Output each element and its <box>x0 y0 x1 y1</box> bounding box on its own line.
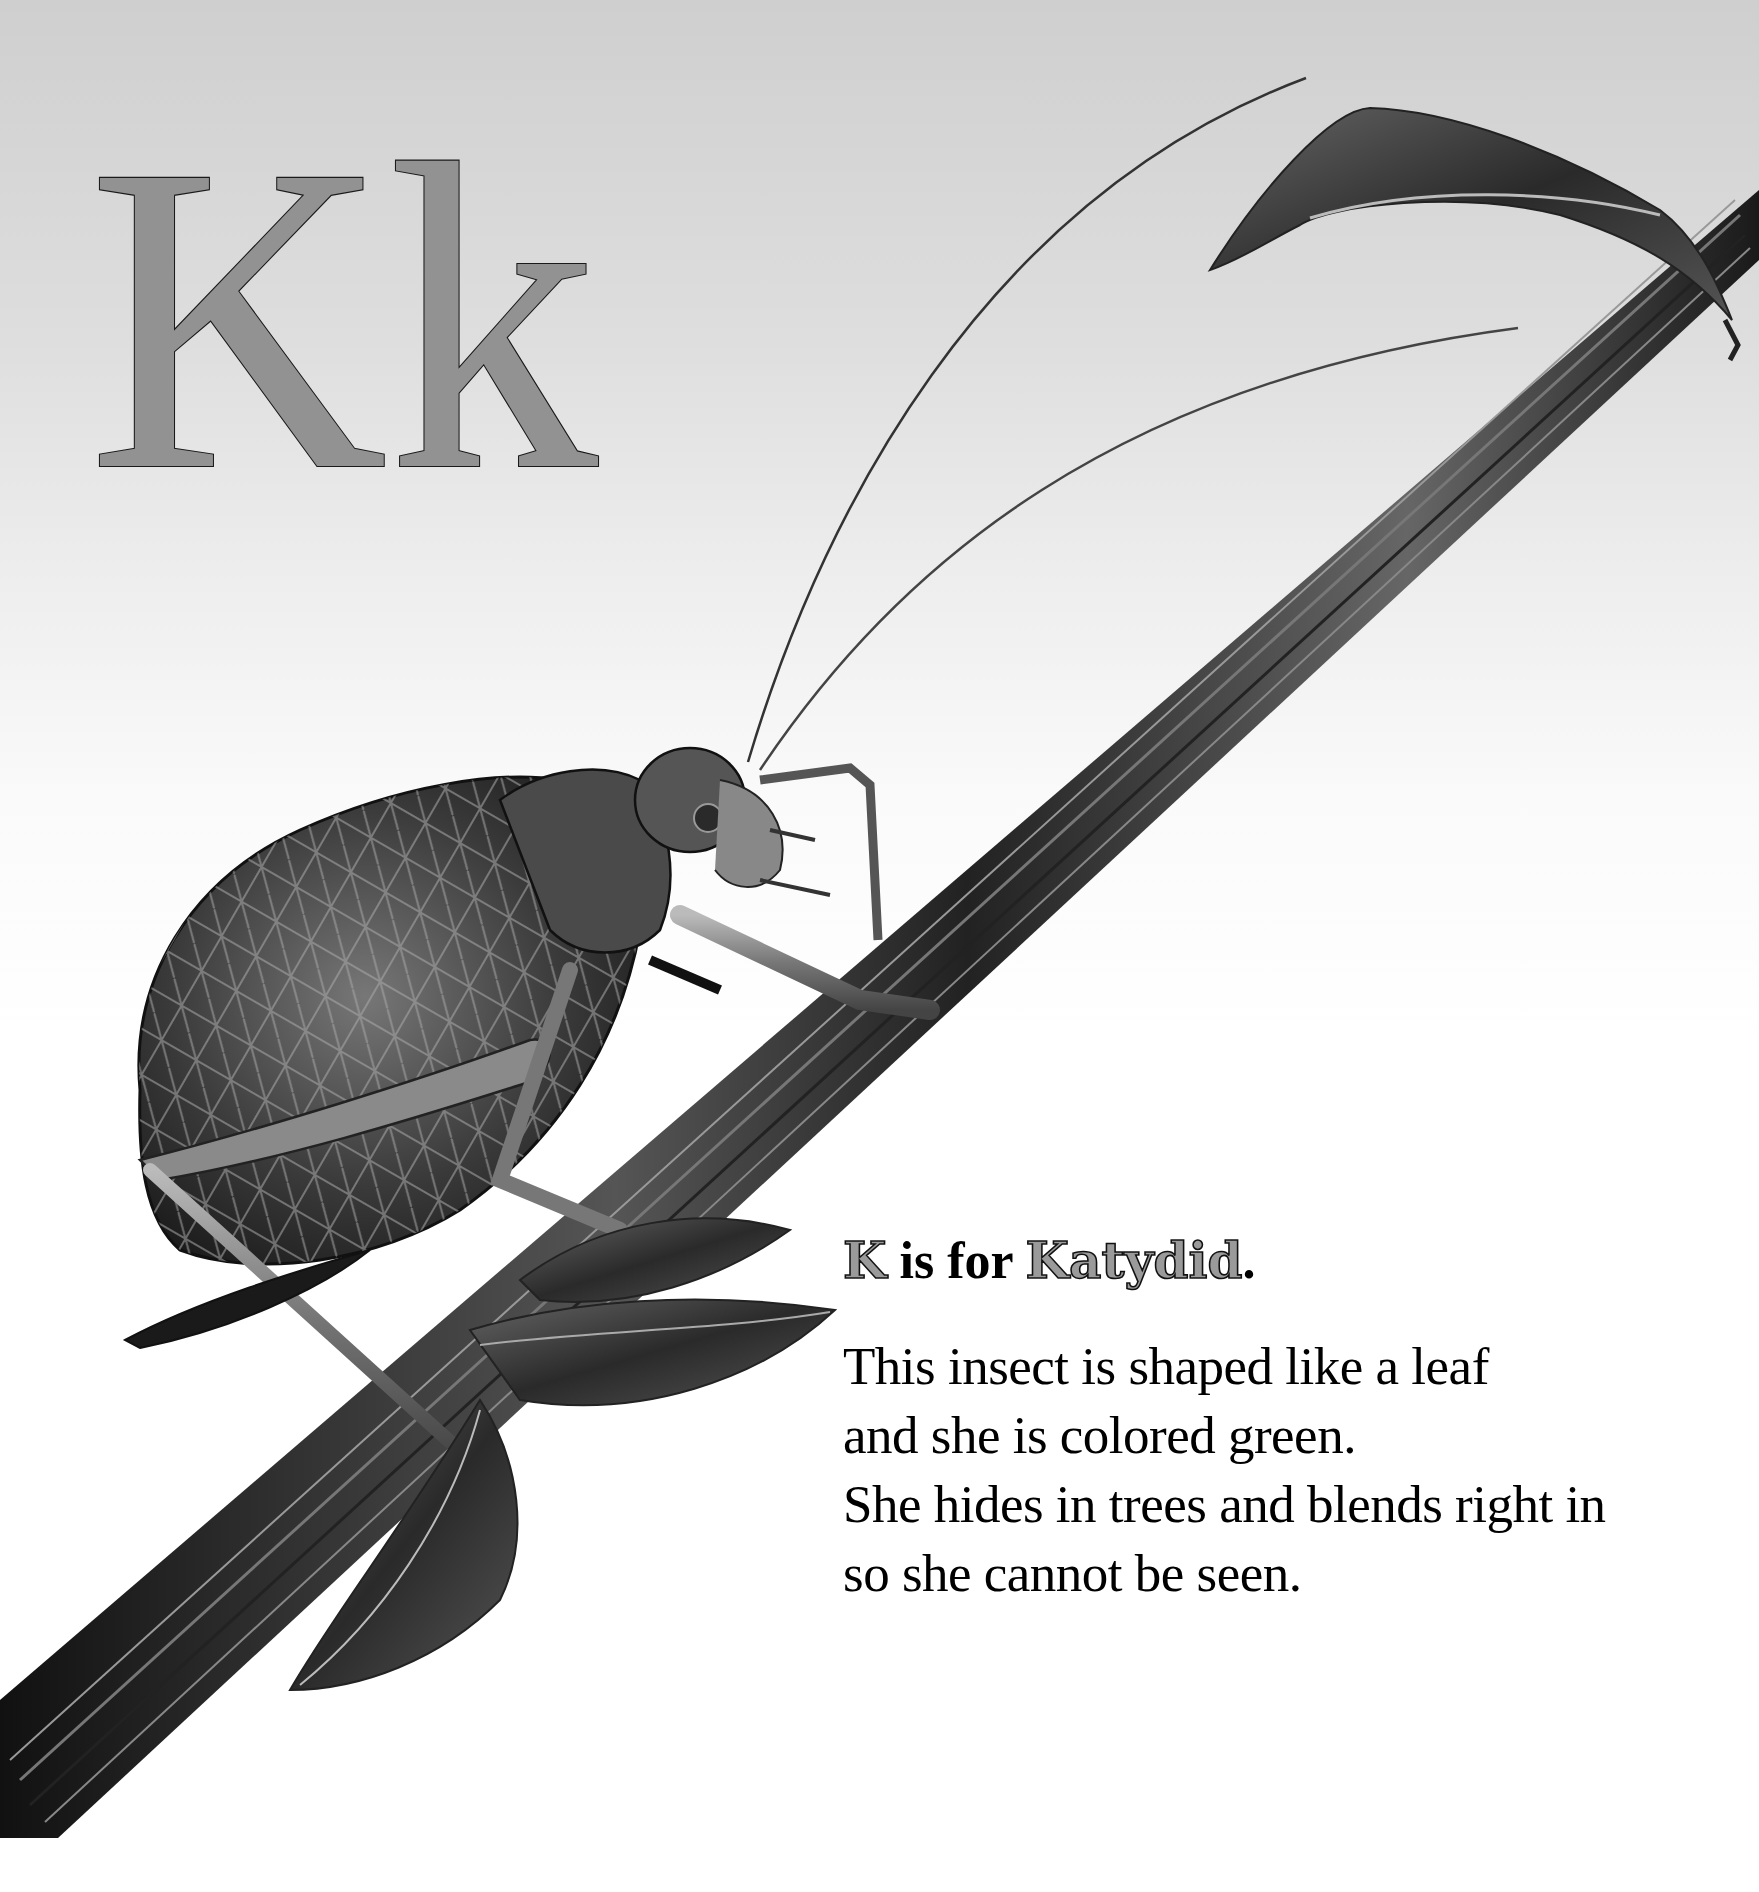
uppercase-letter: K <box>88 74 388 480</box>
verse-line-3: She hides in trees and blends right in <box>843 1470 1743 1539</box>
caption-headline: K is for Katydid. <box>843 1228 1743 1294</box>
alphabet-book-page: K k K is for Katydid. This insect is sha… <box>0 0 1759 1892</box>
headline-punctuation: . <box>1243 1232 1256 1289</box>
big-letter-heading: K k <box>88 60 728 480</box>
verse-text: This insect is shaped like a leaf and sh… <box>843 1332 1743 1608</box>
headline-word: Katydid <box>1026 1231 1243 1290</box>
verse-line-4: so she cannot be seen. <box>843 1539 1743 1608</box>
headline-connector: is for <box>886 1232 1025 1289</box>
verse-line-1: This insect is shaped like a leaf <box>843 1332 1743 1401</box>
headline-letter: K <box>843 1231 886 1290</box>
lowercase-letter: k <box>388 74 598 480</box>
caption-block: K is for Katydid. This insect is shaped … <box>843 1228 1743 1608</box>
verse-line-2: and she is colored green. <box>843 1401 1743 1470</box>
